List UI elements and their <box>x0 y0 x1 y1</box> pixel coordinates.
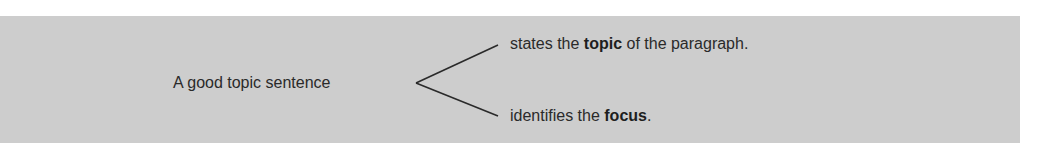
branch-focus-keyword: focus <box>604 107 647 124</box>
upper-branch-line <box>416 45 498 83</box>
branch-focus: identifies the focus. <box>510 107 651 125</box>
branch-topic-keyword: topic <box>584 35 622 52</box>
branch-focus-post: . <box>647 107 651 124</box>
branch-focus-pre: identifies the <box>510 107 604 124</box>
lower-branch-line <box>416 83 498 116</box>
branch-topic-post: of the paragraph. <box>622 35 748 52</box>
branch-topic: states the topic of the paragraph. <box>510 35 748 53</box>
branch-topic-pre: states the <box>510 35 584 52</box>
branch-bracket-icon <box>0 0 1040 154</box>
